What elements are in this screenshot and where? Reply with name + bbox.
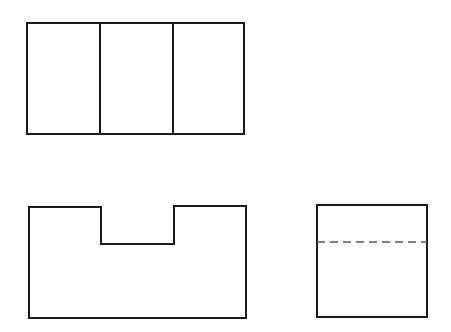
side-view (317, 205, 427, 317)
front-view-outline (29, 206, 246, 318)
front-view (29, 206, 246, 318)
top-view-outline (27, 23, 244, 134)
orthographic-drawing (0, 0, 451, 332)
top-view (27, 23, 244, 134)
side-view-outline (317, 205, 427, 317)
